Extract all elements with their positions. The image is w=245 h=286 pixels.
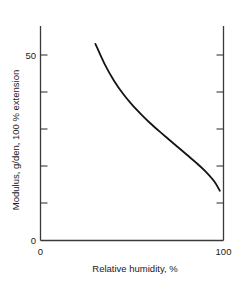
x-tick-label-100: 100 — [216, 246, 232, 257]
modulus-curve — [95, 44, 219, 191]
chart-figure: 50 0 0 100 Relative humidity, % Modulus,… — [0, 0, 245, 286]
x-axis-title: Relative humidity, % — [92, 263, 178, 274]
chart-canvas: 50 0 0 100 Relative humidity, % Modulus,… — [0, 0, 245, 286]
caption-fragment — [0, 274, 245, 286]
y-axis-title: Modulus, g/den, 100 % extension — [10, 70, 21, 210]
y-tick-label-0: 0 — [31, 235, 36, 246]
x-tick-label-0: 0 — [38, 246, 43, 257]
y-tick-label-50: 50 — [25, 50, 36, 61]
